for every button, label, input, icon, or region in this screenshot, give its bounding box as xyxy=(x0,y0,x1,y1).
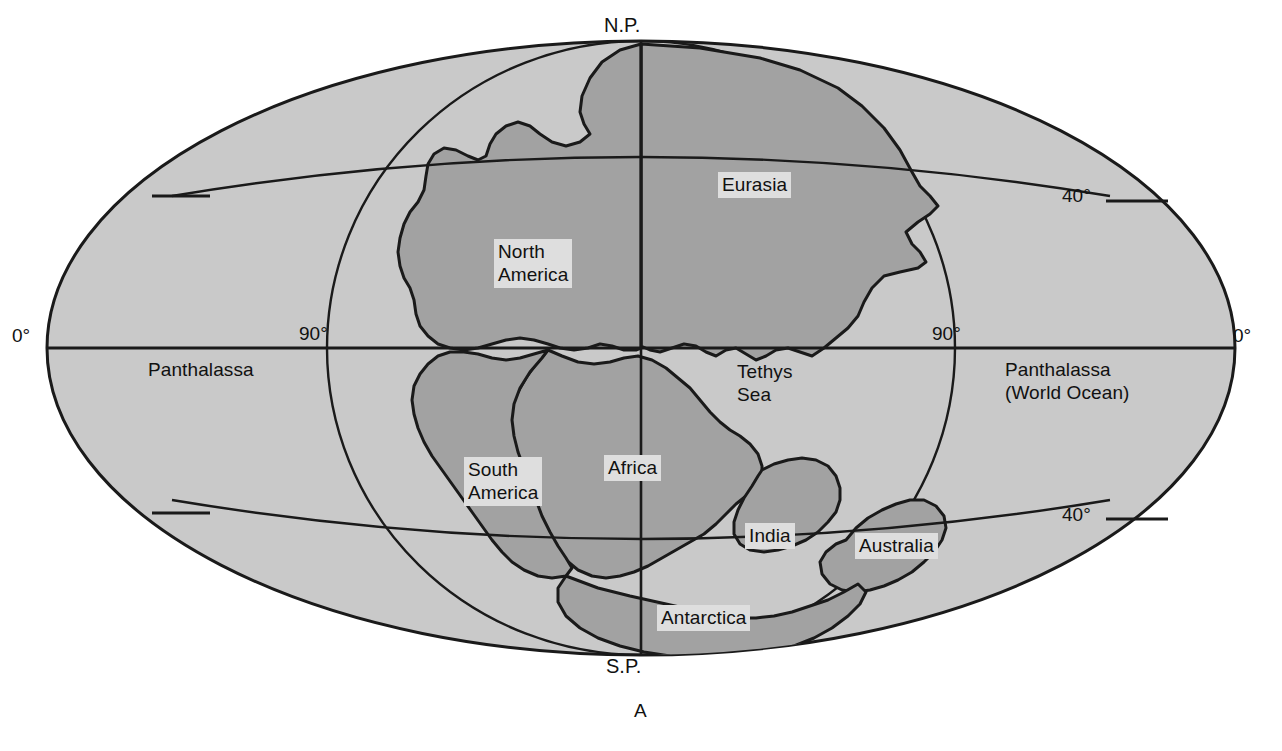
ocean-label-panthalassa-left: Panthalassa xyxy=(148,358,254,381)
meridian-label-right-edge: 0° xyxy=(1233,325,1251,347)
ocean-label-tethys-subtitle: Sea xyxy=(737,383,771,406)
meridian-label-left-inner: 90° xyxy=(299,323,328,345)
ocean-label-panthalassa-right: Panthalassa xyxy=(1005,358,1111,381)
continent-label-eurasia: Eurasia xyxy=(718,172,791,198)
meridian-label-right-inner: 90° xyxy=(932,323,961,345)
north-pole-label: N.P. xyxy=(604,14,640,37)
meridian-label-left-edge: 0° xyxy=(12,325,30,347)
pangaea-map-figure: N.P. S.P. 0° 90° 90° 0° 40° 40° Panthala… xyxy=(0,0,1282,751)
continent-label-india: India xyxy=(745,523,795,549)
ocean-label-tethys: Tethys xyxy=(737,360,793,383)
continent-label-south-america: South America xyxy=(464,457,542,506)
continent-label-antarctica: Antarctica xyxy=(657,605,750,631)
continent-label-north-america: North America xyxy=(494,239,572,288)
parallel-label-south-40: 40° xyxy=(1062,504,1091,526)
ocean-label-panthalassa-right-subtitle: (World Ocean) xyxy=(1005,381,1130,404)
continent-label-africa: Africa xyxy=(604,455,661,481)
figure-caption: A xyxy=(634,700,647,722)
parallel-label-north-40: 40° xyxy=(1062,185,1091,207)
continent-label-australia: Australia xyxy=(855,533,938,559)
south-pole-label: S.P. xyxy=(606,655,641,678)
